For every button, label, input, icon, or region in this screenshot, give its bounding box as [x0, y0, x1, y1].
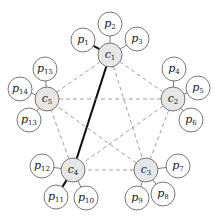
peer-node-p6: p6	[179, 108, 203, 132]
dashed-edge-c1-c5	[57, 62, 100, 92]
peer-edge-c2-p6	[181, 108, 183, 111]
peer-node-p8: p8	[151, 182, 175, 206]
peer-node-p9: p9	[125, 186, 149, 210]
dashed-edge-c2-c4	[83, 106, 163, 163]
peer-edge-c3-p7	[158, 167, 166, 168]
diagram-canvas: c1c2c3c4c5p1p2p3p4p5p6p7p8p9p10p11p12p13…	[0, 0, 219, 222]
center-node-c1: c1	[98, 43, 122, 67]
peer-node-p10: p10	[74, 186, 98, 210]
network-diagram: c1c2c3c4c5p1p2p3p4p5p6p7p8p9p10p11p12p13…	[0, 0, 219, 222]
dashed-edge-c1-c2	[120, 62, 163, 92]
center-node-c5: c5	[35, 87, 59, 111]
peer-edge-c4-p11	[62, 180, 66, 187]
bold-edge-c1-c4	[77, 66, 107, 158]
peer-node-p2: p2	[98, 12, 122, 36]
dashed-edge-c4-c5	[51, 110, 69, 158]
center-node-c3: c3	[134, 158, 158, 182]
peer-node-p15: p15	[33, 57, 57, 81]
peer-edge-c5-p14	[31, 93, 35, 95]
peer-edge-c2-p5	[184, 93, 187, 94]
peer-edge-c1-p1	[93, 46, 99, 49]
peer-node-p5: p5	[186, 76, 210, 100]
center-node-c4: c4	[61, 158, 85, 182]
peer-edge-c3-p8	[153, 180, 156, 184]
center-edges	[51, 62, 169, 170]
peer-node-p11: p11	[44, 185, 68, 209]
peer-node-p3: p3	[125, 27, 149, 51]
peer-edge-c4-p12	[54, 168, 61, 169]
peer-edge-c5-p13	[37, 108, 39, 111]
center-node-c2: c2	[161, 87, 185, 111]
peer-edge-c3-p9	[141, 181, 143, 186]
nodes: c1c2c3c4c5p1p2p3p4p5p6p7p8p9p10p11p12p13…	[8, 12, 210, 210]
peer-node-p13: p13	[17, 108, 41, 132]
peer-node-p1: p1	[71, 28, 95, 52]
dashed-edge-c3-c5	[57, 106, 136, 163]
dashed-edge-c2-c3	[150, 110, 168, 159]
peer-node-p14: p14	[8, 77, 32, 101]
dashed-edge-c1-c3	[114, 66, 143, 158]
peer-edge-c4-p10	[78, 181, 81, 187]
peer-node-p7: p7	[166, 154, 190, 178]
peer-edge-c1-p3	[120, 45, 126, 49]
peer-node-p12: p12	[30, 154, 54, 178]
peer-node-p4: p4	[162, 57, 186, 81]
